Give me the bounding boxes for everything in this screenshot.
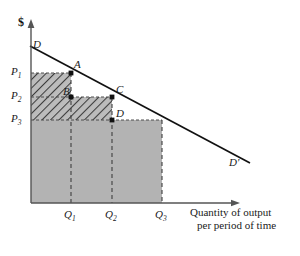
price-tick-p1-sub: 1: [18, 71, 22, 80]
price-tick-p3: P3: [11, 113, 21, 127]
quantity-tick-q2: Q2: [105, 209, 117, 223]
price-tick-p2: P2: [11, 90, 21, 104]
price-tick-p2-sub: 2: [18, 95, 22, 104]
x-axis-title-line-2: per period of time: [197, 219, 276, 232]
price-tick-p3-sub: 3: [18, 118, 22, 127]
price-discrimination-figure: $ P1 P2 P3 Q1 Q2 Q3 D D' A B C D Quantit…: [0, 0, 300, 256]
y-axis-arrowhead: [28, 19, 35, 28]
y-axis-title: $: [18, 15, 24, 30]
curve-start-label: D: [33, 39, 41, 50]
quantity-tick-q1: Q1: [64, 209, 76, 223]
data-point-d: [110, 118, 115, 123]
quantity-tick-q2-sub: 2: [113, 214, 117, 223]
point-label-b: B: [63, 86, 70, 97]
point-label-a: A: [74, 59, 81, 70]
quantity-tick-q1-sub: 1: [72, 214, 76, 223]
quantity-tick-q3-sub: 3: [163, 214, 167, 223]
data-point-c: [110, 95, 115, 100]
point-label-d: D: [116, 108, 124, 119]
data-point-a: [69, 71, 74, 76]
point-label-c: C: [116, 84, 123, 95]
quantity-tick-q3: Q3: [155, 209, 167, 223]
price-tick-p1: P1: [11, 66, 21, 80]
curve-end-label: D': [229, 157, 239, 168]
x-axis-title-line-1: Quantity of output: [190, 206, 271, 219]
region-tier-3-solid: [31, 120, 162, 203]
